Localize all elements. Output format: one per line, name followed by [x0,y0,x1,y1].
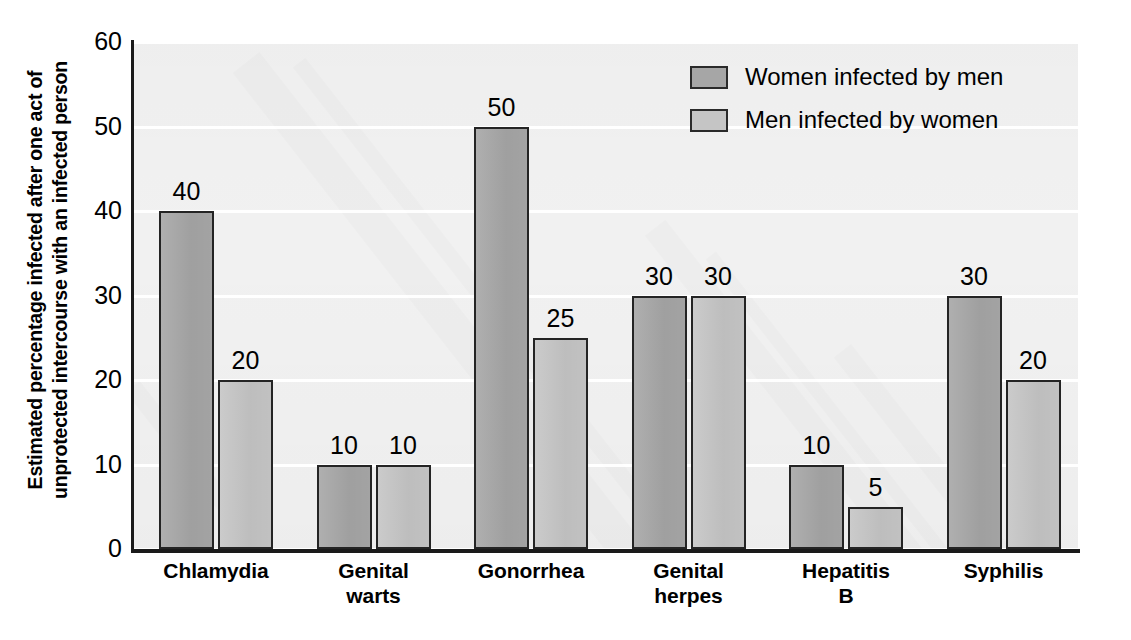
bar-sheen [1008,382,1059,547]
bar-sheen [949,298,1000,548]
x-axis-line [131,549,1080,553]
bar-gonorrhea-series-1 [533,338,588,549]
x-category-label-line: B [759,583,933,608]
legend-item-men: Men infected by women [690,105,1003,135]
y-tick-label-20: 20 [76,367,122,392]
legend-item-women: Women infected by men [690,62,1003,92]
value-label-chlamydia-series-1: 20 [218,348,273,373]
x-category-label-genital-warts: Genitalwarts [287,558,461,608]
legend-swatch-icon-men [690,109,728,132]
value-label-genital-herpes-series-0: 30 [632,264,687,289]
bar-sheen [693,298,744,548]
value-label-genital-warts-series-1: 10 [376,433,431,458]
y-axis-tick-labels: 0102030405060 [72,0,122,560]
bar-genital-warts-series-0 [317,465,372,550]
bar-sheen [476,129,527,548]
bar-genital-warts-series-1 [376,465,431,550]
y-axis-title: Estimated percentage infected after one … [18,15,78,545]
x-category-label-line: herpes [602,583,776,608]
chart-figure: Estimated percentage infected after one … [0,0,1131,640]
bar-hepatitis-b-series-1 [848,507,903,549]
y-tick-label-60: 60 [76,29,122,54]
bar-syphilis-series-1 [1006,380,1061,549]
x-axis-category-labels: ChlamydiaGenitalwartsGonorrheaGenitalher… [133,558,1078,638]
value-label-hepatitis-b-series-0: 10 [789,433,844,458]
bar-sheen [378,467,429,548]
x-category-label-line: warts [287,583,461,608]
legend-swatch-icon-women [690,66,728,89]
bar-sheen [220,382,271,547]
bar-sheen [319,467,370,548]
y-tick-label-30: 30 [76,283,122,308]
value-label-genital-warts-series-0: 10 [317,433,372,458]
value-label-syphilis-series-0: 30 [947,264,1002,289]
x-category-label-hepatitis-b: HepatitisB [759,558,933,608]
bar-chlamydia-series-0 [159,211,214,549]
value-label-gonorrhea-series-1: 25 [533,306,588,331]
value-label-gonorrhea-series-0: 50 [474,95,529,120]
bar-gonorrhea-series-0 [474,127,529,550]
legend-label-men: Men infected by women [745,108,998,132]
value-label-chlamydia-series-0: 40 [159,179,214,204]
x-category-label-line: Genital [602,558,776,583]
bar-sheen [791,467,842,548]
legend: Women infected by men Men infected by wo… [690,62,1003,148]
y-tick-label-50: 50 [76,114,122,139]
x-category-label-line: Chlamydia [129,558,303,583]
x-category-label-line: Gonorrhea [444,558,618,583]
x-category-label-syphilis: Syphilis [917,558,1091,583]
bar-hepatitis-b-series-0 [789,465,844,550]
x-category-label-genital-herpes: Genitalherpes [602,558,776,608]
bar-syphilis-series-0 [947,296,1002,550]
x-category-label-line: Syphilis [917,558,1091,583]
x-category-label-line: Hepatitis [759,558,933,583]
y-tick-label-40: 40 [76,198,122,223]
bar-genital-herpes-series-1 [691,296,746,550]
bar-chlamydia-series-1 [218,380,273,549]
bar-genital-herpes-series-0 [632,296,687,550]
x-category-label-chlamydia: Chlamydia [129,558,303,583]
x-category-label-line: Genital [287,558,461,583]
y-tick-label-0: 0 [76,536,122,561]
bar-sheen [850,509,901,547]
y-tick-label-10: 10 [76,452,122,477]
y-axis-title-line-1: Estimated percentage infected after one … [24,71,46,490]
legend-label-women: Women infected by men [745,65,1003,89]
value-label-genital-herpes-series-1: 30 [691,264,746,289]
value-label-hepatitis-b-series-1: 5 [848,475,903,500]
x-category-label-gonorrhea: Gonorrhea [444,558,618,583]
bar-sheen [535,340,586,547]
bar-sheen [634,298,685,548]
y-axis-title-line-2: unprotected intercourse with an infected… [49,61,71,499]
bar-sheen [161,213,212,547]
value-label-syphilis-series-1: 20 [1006,348,1061,373]
